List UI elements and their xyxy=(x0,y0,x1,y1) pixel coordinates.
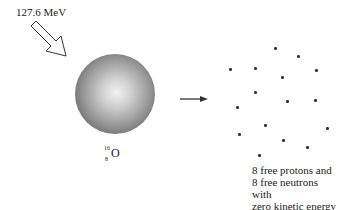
right-arrow-icon xyxy=(178,94,210,104)
nucleon-dot xyxy=(326,127,329,130)
mass-number: 16 xyxy=(104,145,110,151)
nucleon-dot xyxy=(315,69,318,72)
atomic-number: 8 xyxy=(105,156,108,162)
nucleon-dot xyxy=(282,139,285,142)
nucleon-dot xyxy=(314,99,317,102)
nucleon-dot xyxy=(274,47,277,50)
nucleon-dot xyxy=(258,154,261,157)
nucleon-dot xyxy=(254,91,257,94)
nucleon-dot xyxy=(297,55,300,58)
nucleon-dot xyxy=(254,67,257,70)
oxygen-nucleus xyxy=(75,54,155,134)
nucleon-dot xyxy=(238,133,241,136)
energy-label: 127.6 MeV xyxy=(16,6,66,18)
nucleon-dot xyxy=(264,124,267,127)
nucleon-dot xyxy=(306,146,309,149)
caption-line: 8 free neutrons with xyxy=(252,176,340,200)
element-symbol: O xyxy=(111,146,120,161)
caption-line: zero kinetic energy xyxy=(252,200,340,210)
nucleon-dot xyxy=(229,68,232,71)
result-caption: 8 free protons and 8 free neutrons with … xyxy=(252,164,340,210)
nucleon-dot xyxy=(236,106,239,109)
incoming-energy-arrow-icon xyxy=(28,18,72,62)
nucleon-dot xyxy=(281,76,284,79)
nucleon-dot xyxy=(286,100,289,103)
caption-line: 8 free protons and xyxy=(252,164,340,176)
